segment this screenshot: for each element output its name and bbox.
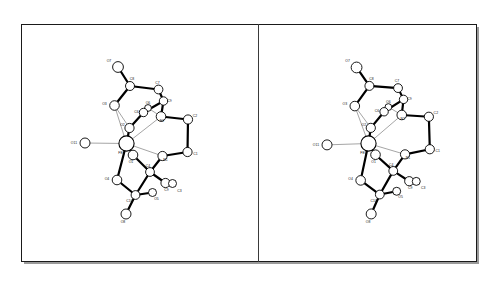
atom-label-C6: C6 xyxy=(375,109,380,113)
atom-label-C2: C2 xyxy=(434,111,439,115)
atom-label-C8: C8 xyxy=(130,77,135,81)
atom-label-O2: O2 xyxy=(120,123,125,127)
atom-label-O3: O3 xyxy=(102,102,107,106)
atom-label-C6: C6 xyxy=(134,110,139,114)
atom-label-C4: C4 xyxy=(146,164,151,168)
atom-C4 xyxy=(146,168,155,177)
atom-O11 xyxy=(322,140,332,150)
atom-label-C10: C10 xyxy=(126,199,133,203)
atom-label-C1: C1 xyxy=(436,149,441,153)
atom-label-C10: C10 xyxy=(371,199,378,203)
atom-label-O5: O5 xyxy=(154,197,159,201)
atom-C8 xyxy=(126,82,135,91)
atom-C6 xyxy=(380,108,388,116)
atom-C1 xyxy=(183,147,192,156)
atom-O5 xyxy=(149,189,157,197)
atom-label-O11: O11 xyxy=(313,143,319,147)
atom-label-C8: C8 xyxy=(369,77,374,81)
atom-C3 xyxy=(169,180,177,188)
atom-label-O1: O1 xyxy=(129,160,134,164)
ortep-stereo-figure: O7C8O3C7C9O6C6O2N2C2O11FE1O1N1C1C4O4C9C3… xyxy=(0,0,498,281)
atom-label-C9: C9 xyxy=(407,97,412,101)
atom-label-C3: C3 xyxy=(177,189,182,193)
atom-C3 xyxy=(412,177,420,185)
atom-C7 xyxy=(154,85,163,94)
atom-label-FE1: FE1 xyxy=(118,151,125,155)
atom-O4 xyxy=(112,175,122,185)
atom-label-N1: N1 xyxy=(163,158,168,162)
atom-C6 xyxy=(139,108,147,116)
atom-C2 xyxy=(183,115,192,124)
atom-O3 xyxy=(350,101,360,111)
atom-C7 xyxy=(394,84,403,93)
atom-O2 xyxy=(125,123,134,132)
atom-O1 xyxy=(128,150,138,160)
atom-label-O8: O8 xyxy=(366,220,371,224)
atom-label-C7: C7 xyxy=(395,79,400,83)
atom-label-N2: N2 xyxy=(160,119,165,123)
atom-label-FE1: FE1 xyxy=(360,151,367,155)
atom-FE1 xyxy=(119,136,134,151)
atom-O7 xyxy=(351,62,362,73)
atom-label-O5: O5 xyxy=(398,195,403,199)
atom-label-C9b: C9 xyxy=(408,186,413,190)
atom-O4 xyxy=(356,176,366,186)
atom-label-O7: O7 xyxy=(107,59,112,63)
atom-label-O11: O11 xyxy=(71,141,77,145)
molecule-diagram-right: O7C8O3C7C9O6C6O2N2C2O11FE1O1N1C1C4O4C9C3… xyxy=(259,24,496,262)
atom-label-C9: C9 xyxy=(167,99,172,103)
atom-label-C9b: C9 xyxy=(164,188,169,192)
stereo-view-right: O7C8O3C7C9O6C6O2N2C2O11FE1O1N1C1C4O4C9C3… xyxy=(259,24,496,262)
atom-O5 xyxy=(393,187,401,195)
stereo-view-left: O7C8O3C7C9O6C6O2N2C2O11FE1O1N1C1C4O4C9C3… xyxy=(21,24,258,262)
atom-label-O7: O7 xyxy=(345,59,350,63)
atom-label-O4: O4 xyxy=(348,177,353,181)
atom-label-N2: N2 xyxy=(400,117,405,121)
atom-FE1 xyxy=(361,136,376,151)
atom-C8 xyxy=(365,81,374,90)
atom-label-C1: C1 xyxy=(193,152,198,156)
atom-label-O1: O1 xyxy=(371,160,376,164)
atom-label-C7: C7 xyxy=(155,81,160,85)
atom-label-C3: C3 xyxy=(421,186,426,190)
atom-O8 xyxy=(366,209,376,219)
atom-label-C2: C2 xyxy=(193,114,198,118)
atom-label-O8: O8 xyxy=(121,220,126,224)
atom-O7 xyxy=(113,62,124,73)
molecule-diagram-left: O7C8O3C7C9O6C6O2N2C2O11FE1O1N1C1C4O4C9C3… xyxy=(21,24,258,262)
atom-C2 xyxy=(424,112,433,121)
atom-label-N1: N1 xyxy=(406,156,411,160)
atom-label-O2: O2 xyxy=(361,123,366,127)
atom-label-O3: O3 xyxy=(342,102,347,106)
atom-C1 xyxy=(425,145,434,154)
atom-O3 xyxy=(110,101,120,111)
atom-C4 xyxy=(389,167,398,176)
atom-O8 xyxy=(121,209,131,219)
atom-label-C4: C4 xyxy=(389,163,394,167)
atom-label-O6: O6 xyxy=(146,101,151,105)
atom-O11 xyxy=(80,138,90,148)
atom-O2 xyxy=(366,123,375,132)
atom-O1 xyxy=(371,150,381,160)
atom-label-O4: O4 xyxy=(105,177,110,181)
atom-label-O6: O6 xyxy=(386,100,391,104)
